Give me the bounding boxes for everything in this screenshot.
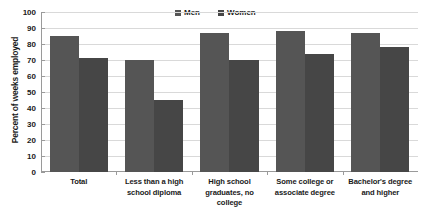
bar-women[interactable] [79, 58, 108, 172]
x-axis-tick-mark [192, 171, 193, 175]
x-axis-category-labels: TotalLess than a highschool diplomaHigh … [41, 177, 418, 220]
y-axis-tick-label: 60 [12, 72, 36, 81]
bar-group [41, 12, 116, 172]
y-axis-tick-mark [41, 156, 45, 157]
y-axis-tick-mark [41, 92, 45, 93]
x-axis-tick-mark [116, 171, 117, 175]
y-axis-tick-mark [41, 76, 45, 77]
y-axis-tick-mark [41, 60, 45, 61]
x-axis-tick-mark [267, 171, 268, 175]
y-axis-tick-label: 100 [12, 8, 36, 17]
y-axis-tick-mark [41, 172, 45, 173]
y-axis-tick-mark [41, 28, 45, 29]
bar-group [116, 12, 191, 172]
bar-men[interactable] [125, 60, 154, 172]
y-axis-tick-label: 80 [12, 40, 36, 49]
y-axis-tick-mark [41, 108, 45, 109]
bar-men[interactable] [200, 33, 229, 172]
x-axis-category-label: Some college orassociate degree [267, 177, 342, 198]
y-axis-tick-label: 0 [12, 168, 36, 177]
bar-group [267, 12, 342, 172]
x-axis-category-label: Less than a highschool diploma [116, 177, 191, 198]
bar-men[interactable] [276, 31, 305, 172]
x-axis-category-label: Total [41, 177, 116, 188]
x-axis-category-label: High schoolgraduates, nocollege [192, 177, 267, 209]
bar-women[interactable] [380, 47, 409, 172]
bar-group [343, 12, 418, 172]
y-axis-tick-label: 20 [12, 136, 36, 145]
bar-group [192, 12, 267, 172]
bar-chart: Percent of weeks employed Men Women 1009… [0, 0, 426, 220]
bar-men[interactable] [351, 33, 380, 172]
y-axis-tick-label: 90 [12, 24, 36, 33]
y-axis-tick-mark [41, 140, 45, 141]
bar-women[interactable] [229, 60, 258, 172]
x-axis-category-label: Bachelor's degreeand higher [343, 177, 418, 198]
y-axis-tick-label: 70 [12, 56, 36, 65]
y-axis-tick-label: 30 [12, 120, 36, 129]
x-axis-tick-mark [343, 171, 344, 175]
y-axis-tick-label: 50 [12, 88, 36, 97]
y-axis-tick-label: 40 [12, 104, 36, 113]
y-axis-tick-mark [41, 12, 45, 13]
plot-area [41, 12, 418, 172]
bar-women[interactable] [305, 54, 334, 172]
y-axis-tick-mark [41, 124, 45, 125]
y-axis-tick-label: 10 [12, 152, 36, 161]
bar-men[interactable] [50, 36, 79, 172]
bar-women[interactable] [154, 100, 183, 172]
y-axis-tick-mark [41, 44, 45, 45]
y-axis-tick-labels: 1009080706050403020100 [6, 12, 36, 172]
